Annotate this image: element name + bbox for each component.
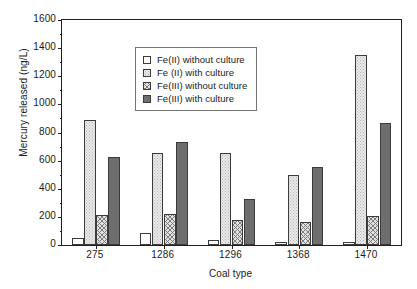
y-axis-minor-tick	[60, 203, 63, 204]
y-axis-minor-tick	[60, 175, 63, 176]
bar	[343, 242, 355, 245]
bar	[275, 242, 287, 245]
legend-item: Fe(II) without culture	[143, 53, 247, 66]
bar	[312, 167, 324, 245]
y-axis-minor-tick	[60, 118, 63, 119]
bar	[232, 220, 244, 245]
y-axis-minor-tick	[60, 62, 63, 63]
bar	[164, 214, 176, 245]
bar-chart-figure: Mercury released (ng/L) 0200400600800100…	[0, 0, 417, 289]
bar	[72, 238, 84, 245]
plot-area: Fe(II) without culture Fe (II) with cult…	[61, 19, 402, 246]
bar	[108, 157, 120, 245]
y-axis-tick-label: 1000	[22, 98, 56, 108]
x-axis-tick-label: 275	[60, 249, 130, 260]
y-axis-tick-label: 0	[22, 239, 56, 249]
x-axis-tick-label: 1296	[196, 249, 266, 260]
y-axis-minor-tick	[60, 147, 63, 148]
y-axis-minor-tick	[60, 90, 63, 91]
bar	[355, 55, 367, 245]
legend-item-label: Fe (II) with culture	[157, 68, 234, 78]
y-axis-tick	[58, 104, 62, 105]
y-axis-tick-label: 200	[22, 211, 56, 221]
y-axis-minor-tick	[60, 34, 63, 35]
legend-swatch-open-icon	[143, 56, 151, 64]
bar	[96, 215, 108, 245]
bar	[288, 175, 300, 245]
legend-item: Fe(III) without culture	[143, 79, 247, 92]
y-axis-tick-label: 400	[22, 183, 56, 193]
bar	[220, 153, 232, 245]
y-axis-tick-label: 1200	[22, 70, 56, 80]
y-axis-tick	[58, 76, 62, 77]
bar	[380, 123, 392, 245]
y-axis-tick-label: 800	[22, 127, 56, 137]
bar	[244, 199, 256, 245]
y-axis-tick-label: 600	[22, 155, 56, 165]
y-axis-tick-labels: 02004006008001000120014001600	[22, 19, 56, 244]
bar	[300, 222, 312, 245]
bar	[367, 216, 379, 245]
y-axis-tick-label: 1600	[22, 14, 56, 24]
x-axis-tick-label: 1368	[263, 249, 333, 260]
x-axis-tick-label: 1286	[128, 249, 198, 260]
legend-swatch-crosshatch-icon	[143, 82, 151, 90]
legend-swatch-solid-icon	[143, 95, 151, 103]
legend-item: Fe(III) with culture	[143, 92, 247, 105]
y-axis-tick	[58, 20, 62, 21]
bar	[176, 142, 188, 245]
y-axis-minor-tick	[60, 231, 63, 232]
chart-legend: Fe(II) without culture Fe (II) with cult…	[135, 47, 257, 111]
y-axis-tick	[58, 133, 62, 134]
x-axis-tick-label: 1470	[331, 249, 401, 260]
y-axis-tick	[58, 48, 62, 49]
legend-item-label: Fe(II) without culture	[157, 55, 245, 65]
legend-swatch-dotted-icon	[143, 69, 151, 77]
bar	[208, 240, 220, 245]
y-axis-tick	[58, 189, 62, 190]
legend-item-label: Fe(III) with culture	[157, 94, 234, 104]
y-axis-tick	[58, 161, 62, 162]
bar	[84, 120, 96, 245]
x-axis-tick-labels: 2751286129613681470	[61, 249, 400, 263]
bar	[140, 233, 152, 245]
x-axis-title: Coal type	[61, 268, 400, 279]
legend-item: Fe (II) with culture	[143, 66, 247, 79]
y-axis-tick-label: 1400	[22, 42, 56, 52]
y-axis-tick	[58, 217, 62, 218]
legend-item-label: Fe(III) without culture	[157, 81, 247, 91]
y-axis-tick	[58, 245, 62, 246]
bar	[152, 153, 164, 245]
